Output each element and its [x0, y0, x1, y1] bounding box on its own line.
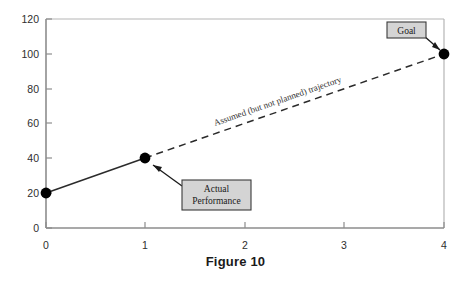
x-tick-label-3: 3 — [341, 239, 347, 251]
y-tick-label-80: 80 — [27, 83, 39, 95]
figure-container: 0 20 40 60 80 100 120 0 1 2 3 4 — [0, 0, 471, 287]
data-point-goal — [439, 49, 450, 60]
goal-callout: Goal — [387, 22, 440, 50]
trajectory-label-group: Assumed (but not planned) trajectory — [212, 74, 343, 128]
actual-performance-line — [46, 158, 145, 193]
trajectory-label: Assumed (but not planned) trajectory — [212, 74, 343, 128]
performance-trajectory-chart: 0 20 40 60 80 100 120 0 1 2 3 4 — [0, 0, 471, 287]
y-tick-label-100: 100 — [21, 48, 39, 60]
y-tick-label-0: 0 — [33, 222, 39, 234]
y-tick-label-120: 120 — [21, 13, 39, 25]
y-tick-label-60: 60 — [27, 117, 39, 129]
figure-caption: Figure 10 — [0, 254, 471, 269]
data-point-markers — [41, 49, 450, 199]
y-tick-label-40: 40 — [27, 152, 39, 164]
x-tick-label-2: 2 — [242, 239, 248, 251]
data-point-actual-performance — [140, 153, 151, 164]
data-point-start — [41, 188, 52, 199]
x-axis-ticks — [46, 222, 444, 228]
y-axis-tick-labels: 0 20 40 60 80 100 120 — [21, 13, 39, 234]
x-tick-label-1: 1 — [142, 239, 148, 251]
x-tick-label-4: 4 — [441, 239, 447, 251]
actual-performance-callout-line2: Performance — [192, 196, 241, 206]
actual-performance-callout: Actual Performance — [153, 165, 251, 210]
actual-performance-callout-line1: Actual — [204, 184, 230, 194]
x-tick-label-0: 0 — [43, 239, 49, 251]
x-axis-tick-labels: 0 1 2 3 4 — [43, 239, 447, 251]
goal-callout-label: Goal — [397, 26, 416, 36]
assumed-trajectory-line — [145, 54, 444, 158]
data-series-group — [46, 54, 444, 193]
y-tick-label-20: 20 — [27, 187, 39, 199]
